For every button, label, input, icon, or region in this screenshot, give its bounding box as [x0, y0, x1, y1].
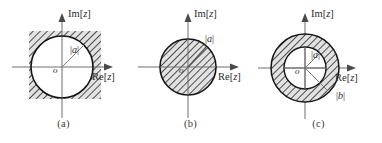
imaginary-axis-arrow-icon: [302, 13, 309, 22]
panel-b: Im[z] Re[z] o |a| (b): [127, 0, 254, 143]
panel-c: Im[z] Re[z] o |a| |b| (c): [255, 0, 382, 143]
radius-magnitude-label: |a|: [205, 33, 214, 44]
origin-label: o: [179, 65, 184, 75]
real-axis-arrow-icon: [230, 64, 239, 71]
imaginary-axis-label: Im[z]: [68, 8, 91, 19]
inner-radius-magnitude-label: |a|: [311, 49, 320, 60]
real-axis-label: Re[z]: [218, 71, 241, 82]
real-axis-arrow-icon: [347, 65, 356, 72]
panel-a-caption: (a): [0, 118, 127, 129]
panel-c-caption: (c): [255, 118, 382, 129]
real-axis-label: Re[z]: [92, 71, 115, 82]
origin-label: o: [295, 66, 300, 76]
radius-magnitude-label: |a|: [70, 44, 79, 55]
origin-label: o: [53, 65, 58, 75]
imaginary-axis-label: Im[z]: [194, 8, 217, 19]
panel-a: Im[z] Re[z] o |a| (a): [0, 0, 127, 143]
panel-b-caption: (b): [127, 118, 254, 129]
complex-plane-roc-figure: Im[z] Re[z] o |a| (a): [0, 0, 382, 143]
imaginary-axis-arrow-icon: [185, 13, 192, 22]
imaginary-axis-arrow-icon: [59, 13, 66, 22]
real-axis-arrow-icon: [104, 64, 113, 71]
real-axis-label: Re[z]: [335, 72, 358, 83]
imaginary-axis-label: Im[z]: [311, 8, 334, 19]
outer-radius-magnitude-label: |b|: [336, 90, 345, 101]
